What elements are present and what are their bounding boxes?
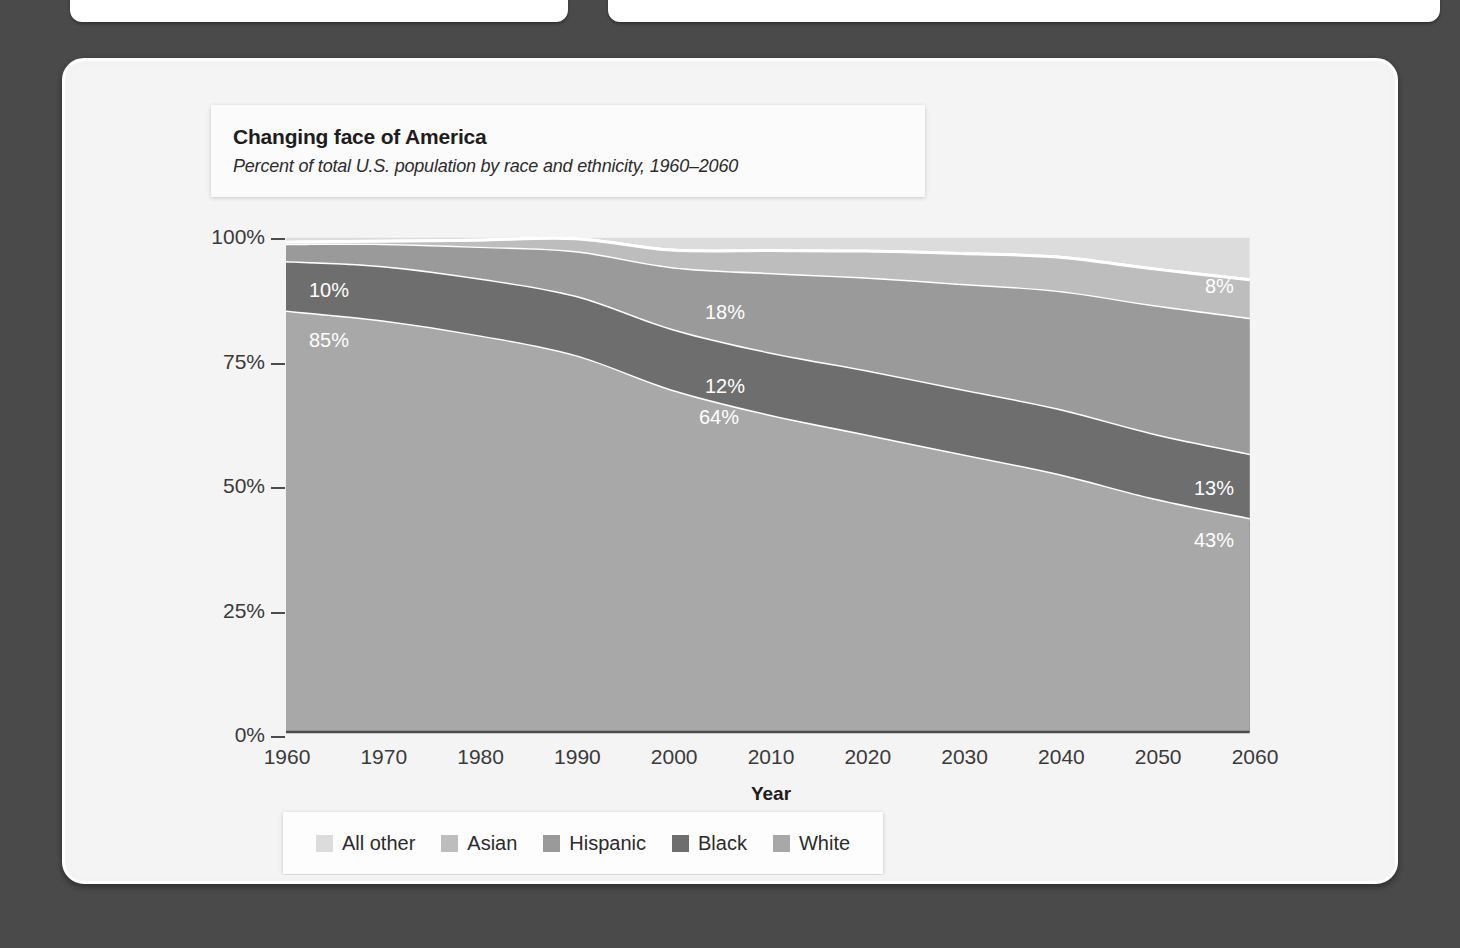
- y-axis-tick-mark: [271, 612, 285, 614]
- legend-swatch-icon: [316, 835, 333, 852]
- legend-item-white[interactable]: White: [773, 832, 850, 855]
- chart-card-inner: Changing face of America Percent of tota…: [71, 67, 1389, 875]
- x-axis-tick-label: 2020: [828, 745, 908, 769]
- data-label: 18%: [705, 301, 745, 324]
- chart-card: Changing face of America Percent of tota…: [62, 58, 1398, 884]
- x-axis-tick-label: 2030: [925, 745, 1005, 769]
- y-axis-tick-label: 75%: [175, 350, 265, 374]
- data-label: 8%: [1205, 275, 1234, 298]
- x-axis-tick-label: 2010: [731, 745, 811, 769]
- data-label: 85%: [309, 329, 349, 352]
- legend-item-all-other[interactable]: All other: [316, 832, 415, 855]
- x-axis-tick-label: 2040: [1021, 745, 1101, 769]
- legend-item-label: White: [799, 832, 850, 855]
- x-axis-tick-label: 1980: [441, 745, 521, 769]
- chart-overlay: 0%25%50%75%100%1960197019801990200020102…: [71, 67, 1389, 875]
- x-axis-tick-label: 2000: [634, 745, 714, 769]
- chart-legend: All otherAsianHispanicBlackWhite: [283, 812, 883, 874]
- legend-item-black[interactable]: Black: [672, 832, 747, 855]
- x-axis-tick-label: 2060: [1215, 745, 1295, 769]
- legend-item-label: Asian: [467, 832, 517, 855]
- y-axis-tick-label: 50%: [175, 474, 265, 498]
- legend-item-label: All other: [342, 832, 415, 855]
- y-axis-tick-mark: [271, 238, 285, 240]
- legend-item-asian[interactable]: Asian: [441, 832, 517, 855]
- legend-item-hispanic[interactable]: Hispanic: [543, 832, 646, 855]
- top-partial-panel-right[interactable]: [608, 0, 1440, 22]
- legend-swatch-icon: [543, 835, 560, 852]
- legend-item-label: Black: [698, 832, 747, 855]
- y-axis-tick-label: 25%: [175, 599, 265, 623]
- x-axis-tick-label: 1990: [537, 745, 617, 769]
- legend-swatch-icon: [441, 835, 458, 852]
- data-label: 13%: [1194, 477, 1234, 500]
- data-label: 64%: [699, 406, 739, 429]
- legend-swatch-icon: [672, 835, 689, 852]
- x-axis-title: Year: [711, 783, 831, 805]
- y-axis-tick-label: 0%: [175, 723, 265, 747]
- y-axis-tick-label: 100%: [175, 225, 265, 249]
- top-partial-panel-left[interactable]: [70, 0, 568, 22]
- data-label: 43%: [1194, 529, 1234, 552]
- legend-item-label: Hispanic: [569, 832, 646, 855]
- data-label: 10%: [309, 279, 349, 302]
- data-label: 12%: [705, 375, 745, 398]
- x-axis-tick-label: 1970: [344, 745, 424, 769]
- legend-swatch-icon: [773, 835, 790, 852]
- y-axis-tick-mark: [271, 363, 285, 365]
- x-axis-tick-label: 2050: [1118, 745, 1198, 769]
- y-axis-tick-mark: [271, 736, 285, 738]
- x-axis-tick-label: 1960: [247, 745, 327, 769]
- y-axis-tick-mark: [271, 487, 285, 489]
